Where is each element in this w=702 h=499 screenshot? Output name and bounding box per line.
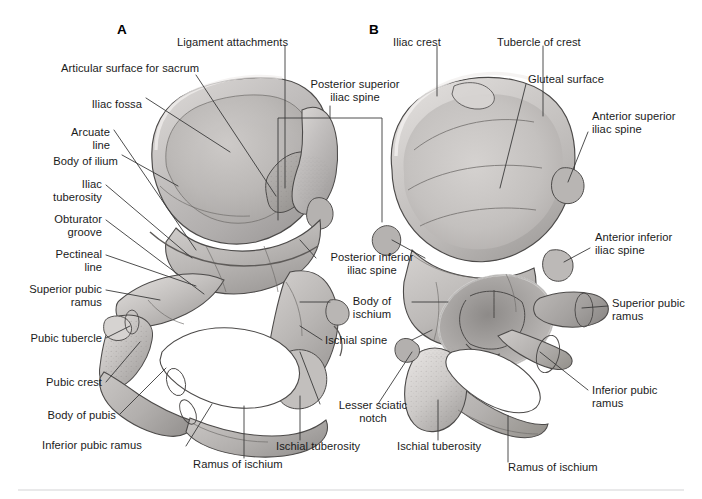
- label-anterior-superior-iliac-spine: Anterior superior iliac spine: [592, 110, 696, 137]
- bone-a-medial-view: [99, 76, 349, 457]
- label-superior-pubic-ramus-b: Superior pubic ramus: [612, 297, 702, 324]
- label-gluteal-surface: Gluteal surface: [528, 73, 636, 86]
- label-inferior-pubic-ramus-a: Inferior pubic ramus: [42, 439, 192, 452]
- label-posterior-inferior-iliac-spine: Posterior inferior iliac spine: [318, 251, 426, 278]
- anatomy-figure: A B Articular surface for sacrum Iliac f…: [0, 0, 702, 499]
- label-anterior-inferior-iliac-spine: Anterior inferior iliac spine: [595, 231, 697, 258]
- label-ischial-spine: Ischial spine: [325, 334, 411, 347]
- label-arcuate-line: Arcuate line: [40, 126, 110, 153]
- label-body-of-ilium: Body of ilium: [20, 155, 118, 168]
- label-tubercle-of-crest: Tubercle of crest: [497, 36, 613, 49]
- label-pubic-tubercle: Pubic tubercle: [12, 332, 102, 345]
- label-ligament-attachments: Ligament attachments: [177, 36, 317, 49]
- label-pectineal-line: Pectineal line: [30, 248, 102, 275]
- label-iliac-crest: Iliac crest: [393, 36, 473, 49]
- label-lesser-sciatic-notch: Lesser sciatic notch: [326, 399, 420, 426]
- label-iliac-fossa: Iliac fossa: [40, 98, 142, 111]
- label-pubic-crest: Pubic crest: [16, 376, 102, 389]
- label-body-of-pubis: Body of pubis: [22, 409, 116, 422]
- footer-rule: [18, 489, 684, 491]
- bone-b-superior-pubic-ramus: [534, 292, 609, 327]
- panel-id-b: B: [369, 22, 379, 37]
- label-ramus-of-ischium-a: Ramus of ischium: [193, 458, 309, 471]
- label-ischial-tuberosity-b: Ischial tuberosity: [397, 440, 507, 453]
- panel-id-a: A: [117, 22, 127, 37]
- bone-b-anterior-inferior-iliac-spine: [543, 250, 573, 282]
- bone-b-anterior-superior-iliac-spine: [551, 168, 584, 204]
- label-articular-surface-for-sacrum: Articular surface for sacrum: [61, 62, 231, 75]
- label-body-of-ischium: Body of ischium: [333, 295, 411, 322]
- label-inferior-pubic-ramus-b: Inferior pubic ramus: [592, 384, 682, 411]
- label-posterior-superior-iliac-spine: Posterior superior iliac spine: [300, 78, 410, 105]
- label-ischial-tuberosity-a: Ischial tuberosity: [276, 440, 386, 453]
- leader-psis-bracket-right: [330, 118, 382, 222]
- label-obturator-groove: Obturator groove: [30, 213, 102, 240]
- label-ramus-of-ischium-b: Ramus of ischium: [508, 461, 624, 474]
- label-superior-pubic-ramus-a: Superior pubic ramus: [12, 283, 102, 310]
- label-iliac-tuberosity: Iliac tuberosity: [30, 178, 102, 205]
